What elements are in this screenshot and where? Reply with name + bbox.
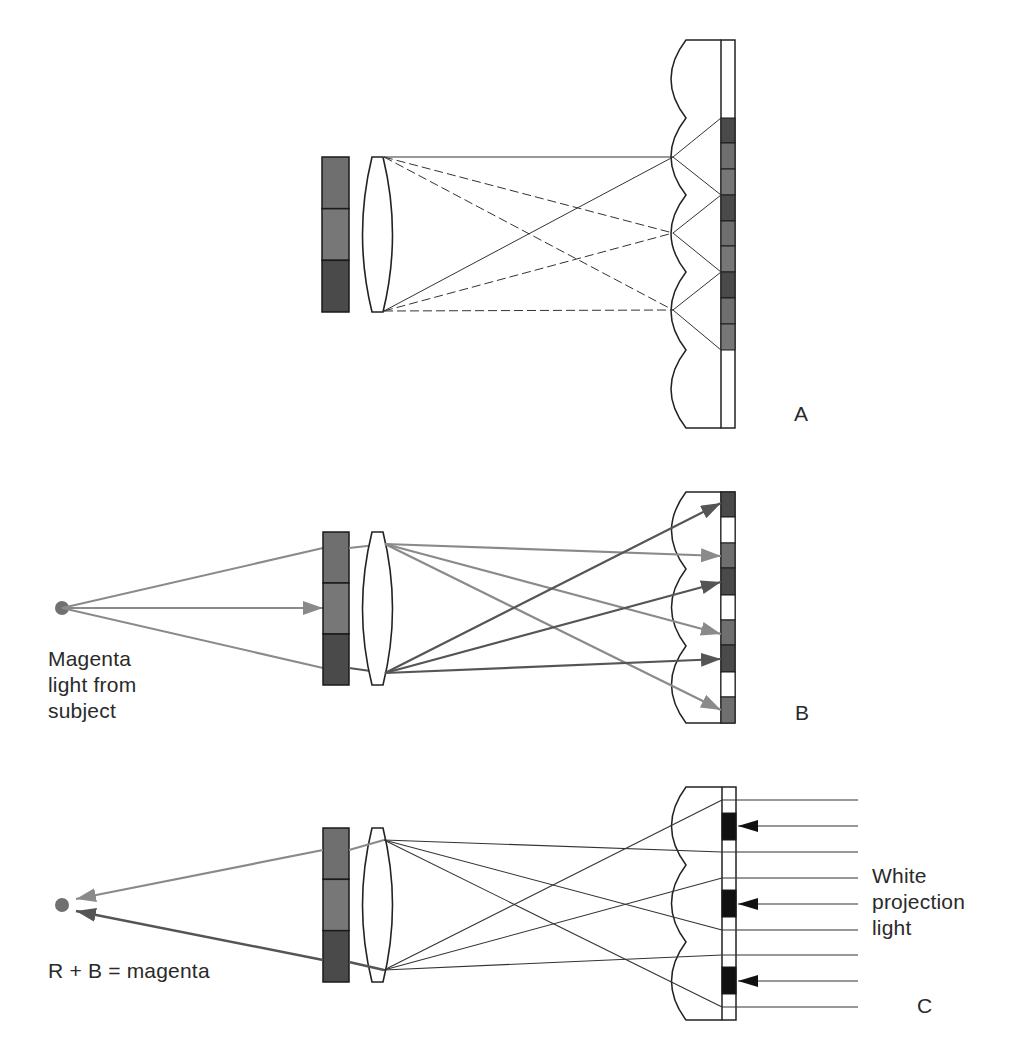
- result-label: R + B = magenta: [48, 958, 210, 984]
- panel-c-color-filter-segment: [323, 931, 349, 982]
- panel-c-lenticular-screen: [672, 787, 737, 1020]
- panel-b-lenticular-screen-strip-segment: [721, 645, 735, 672]
- panel-a-focus-ray: [673, 157, 721, 195]
- source-label-line-3: subject: [48, 698, 136, 724]
- source-label: Magenta light from subject: [48, 646, 136, 724]
- panel-c-lenticular-screen-strip-segment: [722, 890, 736, 917]
- panel-b: [55, 492, 735, 723]
- panel-a-ray-dashed: [384, 157, 673, 233]
- panel-c-projected-ray: [384, 955, 722, 970]
- source-label-line-2: light from: [48, 672, 136, 698]
- panel-c-red-ray-arrow: [76, 850, 323, 899]
- panel-b-lenticular-screen-strip-segment: [721, 543, 735, 568]
- panel-a-focus-ray: [673, 195, 721, 233]
- panel-a-camera-lens: [363, 157, 393, 312]
- panel-c-projected-ray: [384, 840, 722, 930]
- panel-c-color-filter: [323, 828, 349, 982]
- projection-label-line-2: projection: [872, 889, 965, 915]
- panel-b-blue-ray-arrow: [385, 503, 721, 673]
- panel-a-lenticular-screen-strip-segment: [721, 221, 735, 246]
- panel-a-lenticular-screen-strip-segment: [721, 143, 735, 169]
- panel-label-c: C: [917, 995, 932, 1017]
- panel-b-lenticular-screen-strip-segment: [721, 492, 735, 517]
- panel-a-lenticular-screen-strip-segment: [721, 246, 735, 272]
- projection-label-line-3: light: [872, 915, 965, 941]
- panel-b-lenticular-screen-strip-segment: [721, 697, 735, 723]
- panel-a: [322, 40, 735, 428]
- panel-b-blue-ray-arrow: [385, 659, 721, 673]
- panel-b-color-filter: [323, 532, 349, 685]
- panel-c-lenticular-screen-strip-segment: [722, 813, 736, 840]
- projection-light-label: White projection light: [872, 863, 965, 941]
- panel-a-lenticular-screen-strip-segment: [721, 169, 735, 195]
- panel-c-lenticular-screen-strip-segment: [722, 967, 736, 994]
- panel-a-focus-ray: [673, 233, 721, 272]
- panel-a-focus-ray: [673, 310, 721, 350]
- panel-a-color-filter: [322, 157, 349, 312]
- panel-b-lenticular-screen-strip-segment: [721, 568, 735, 595]
- panel-c-blue-ray-arrow: [76, 911, 323, 960]
- panel-a-lenticular-screen-strip-segment: [721, 298, 735, 324]
- panel-c-magenta-dot: [55, 898, 69, 912]
- panel-label-a: A: [794, 403, 808, 425]
- panel-b-color-filter-segment: [323, 634, 349, 685]
- panel-b-blue-ray-arrow: [385, 582, 721, 673]
- panel-a-lenticular-screen-strip-segment: [721, 118, 735, 143]
- lenticular-color-diagram: [0, 0, 1019, 1062]
- panel-a-lenticular-screen-lens-edge: [671, 40, 721, 428]
- source-label-line-1: Magenta: [48, 646, 136, 672]
- panel-a-lenticular-screen-strip-segment: [721, 195, 735, 221]
- panel-a-focus-ray: [673, 272, 721, 310]
- panel-c-projected-ray: [384, 840, 722, 852]
- panel-b-lenticular-screen-strip-segment: [721, 620, 735, 645]
- panel-b-lenticular-screen-strip-segment: [721, 595, 735, 620]
- panel-a-lenticular-screen-strip-segment: [721, 324, 735, 350]
- projection-label-line-1: White: [872, 863, 965, 889]
- panel-a-lenticular-screen: [671, 40, 735, 428]
- panel-label-b: B: [795, 702, 809, 724]
- panel-c-color-filter-segment: [323, 879, 349, 930]
- panel-b-camera-lens: [363, 532, 393, 685]
- panel-a-ray-dashed: [384, 310, 673, 311]
- panel-b-color-filter-segment: [323, 583, 349, 634]
- panel-a-focus-ray: [673, 118, 721, 157]
- panel-b-lenticular-screen-strip-segment: [721, 672, 735, 697]
- panel-a-color-filter-segment: [322, 157, 349, 209]
- panel-a-color-filter-segment: [322, 260, 349, 312]
- panel-c-projection-lens: [363, 828, 393, 982]
- panel-a-lenticular-screen-strip-segment: [721, 272, 735, 298]
- panel-a-color-filter-segment: [322, 209, 349, 261]
- panel-c-projected-ray: [384, 840, 722, 1007]
- panel-b-lenticular-screen: [672, 492, 736, 723]
- panel-c: [55, 787, 858, 1020]
- panel-a-ray-dashed: [384, 233, 673, 311]
- panel-b-color-filter-segment: [323, 532, 349, 583]
- panel-b-incoming-ray: [62, 548, 323, 608]
- panel-c-color-filter-segment: [323, 828, 349, 879]
- panel-b-lenticular-screen-strip-segment: [721, 517, 735, 543]
- panel-b-red-ray-arrow: [385, 544, 721, 556]
